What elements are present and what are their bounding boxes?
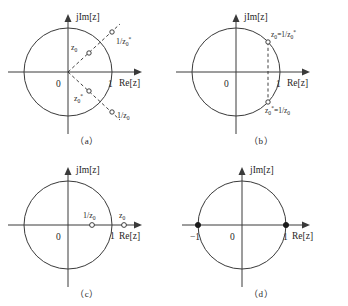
imaginary-axis-arrow-icon [65,167,72,175]
panel-d: jIm[z] Re[z] 0 −1 1 （d） [174,153,348,306]
panel-c: jIm[z] Re[z] 0 1 1/z0 z0 （c） [0,153,174,306]
point-z0-conj-marker [266,100,270,104]
imaginary-axis-label: jIm[z] [75,165,100,175]
point-z0-marker [122,223,127,228]
panel-a-diagram: jIm[z] Re[z] 0 1 z0 1/z0* z0* 1/z0 [0,0,174,153]
panel-c-caption: （c） [0,287,174,300]
point-label-z0: z0=1/z0* [271,29,296,40]
imaginary-axis-label: jIm[z] [243,12,268,22]
panel-a-caption: （a） [0,134,174,147]
point-label-z0: z0 [119,211,126,221]
imaginary-axis-arrow-icon [233,14,240,22]
point-label-1-over-z0: 1/z0 [83,211,96,221]
real-axis-arrow-icon [134,69,142,76]
unit-label: 1 [276,79,281,89]
origin-label: 0 [224,79,229,89]
imaginary-axis-arrow-icon [239,167,246,175]
panel-b: jIm[z] Re[z] 0 1 z0=1/z0* z0*=1/z0 （b） [174,0,348,153]
point-1-over-z0-conj-marker [110,30,114,34]
unit-label: 1 [108,79,113,89]
panel-b-diagram: jIm[z] Re[z] 0 1 z0=1/z0* z0*=1/z0 [174,0,348,153]
origin-label: 0 [230,232,235,242]
point-1-over-z0-marker [90,223,95,228]
real-axis-arrow-icon [302,222,310,229]
panel-a: jIm[z] Re[z] 0 1 z0 1/z0* z0* 1/z0 （a） [0,0,174,153]
point-label-1-over-z0-conj: 1/z0* [116,36,132,47]
point-label-1-over-z0: 1/z0 [117,111,130,121]
real-axis-label: Re[z] [119,231,140,241]
point-minus-one-marker [195,222,200,227]
point-label-z0-conj: z0* [74,93,83,104]
point-label-z0: z0 [71,43,78,53]
point-z0-marker [87,51,91,55]
unit-circle-figure: jIm[z] Re[z] 0 1 z0 1/z0* z0* 1/z0 （a） j… [0,0,348,306]
unit-label: 1 [283,232,288,242]
real-axis-arrow-icon [302,69,310,76]
imaginary-axis-label: jIm[z] [249,165,274,175]
real-axis-arrow-icon [134,222,142,229]
origin-label: 0 [56,79,61,89]
panel-d-caption: （d） [174,287,348,300]
imaginary-axis-label: jIm[z] [75,12,100,22]
panel-c-diagram: jIm[z] Re[z] 0 1 1/z0 z0 [0,153,174,306]
negative-unit-label: −1 [190,232,200,242]
point-z0-conj-marker [87,89,91,93]
unit-label: 1 [110,231,115,241]
real-axis-label: Re[z] [292,231,313,241]
panel-d-diagram: jIm[z] Re[z] 0 −1 1 [174,153,348,306]
panel-b-caption: （b） [174,134,348,147]
point-z0-marker [266,40,270,44]
point-label-z0-conj: z0*=1/z0 [265,105,290,116]
point-plus-one-marker [283,222,288,227]
origin-label: 0 [56,232,61,242]
real-axis-label: Re[z] [119,78,140,88]
real-axis-label: Re[z] [287,78,308,88]
point-1-over-z0-marker [110,110,114,114]
imaginary-axis-arrow-icon [65,14,72,22]
